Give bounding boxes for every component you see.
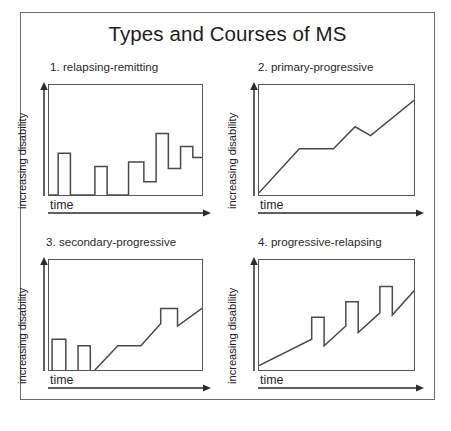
panel-primary-progressive: 2. primary-progressive increasing disabi… xyxy=(238,60,430,220)
panel-3-y-axis: increasing disability xyxy=(28,257,48,371)
panel-1-title: 1. relapsing-remitting xyxy=(50,60,158,73)
y-axis-arrow-icon xyxy=(238,257,258,371)
panel-3-series xyxy=(49,260,202,370)
panel-secondary-progressive: 3. secondary-progressive increasing disa… xyxy=(28,235,218,395)
x-axis-arrow-icon xyxy=(48,375,213,391)
y-axis-arrow-icon xyxy=(28,82,48,196)
panel-2-series xyxy=(259,85,414,195)
panel-1-series xyxy=(49,85,202,195)
panel-3-y-axis-label: increasing disability xyxy=(16,270,29,384)
x-axis-arrow-icon xyxy=(48,200,213,216)
panel-4-title: 4. progressive-relapsing xyxy=(258,235,382,248)
panel-1-plot-area xyxy=(48,84,203,196)
x-axis-arrow-icon xyxy=(258,375,426,391)
x-axis-arrow-icon xyxy=(258,200,426,216)
panel-4-x-axis: time xyxy=(258,375,426,395)
panel-3-title: 3. secondary-progressive xyxy=(46,235,176,248)
page-title: Types and Courses of MS xyxy=(20,22,435,46)
panel-4-plot-area xyxy=(258,259,415,371)
panel-2-y-axis: increasing disability xyxy=(238,82,258,196)
panel-progressive-relapsing: 4. progressive-relapsing increasing disa… xyxy=(238,235,430,395)
panel-2-x-axis: time xyxy=(258,200,426,220)
panel-4-series xyxy=(259,260,414,370)
y-axis-arrow-icon xyxy=(238,82,258,196)
panel-1-x-axis: time xyxy=(48,200,213,220)
panel-2-title: 2. primary-progressive xyxy=(258,60,373,73)
panel-3-plot-area xyxy=(48,259,203,371)
panel-2-plot-area xyxy=(258,84,415,196)
panel-1-y-axis: increasing disability xyxy=(28,82,48,196)
panel-relapsing-remitting: 1. relapsing-remitting increasing disabi… xyxy=(28,60,218,220)
panel-4-y-axis-label: increasing disability xyxy=(226,270,239,384)
panel-2-y-axis-label: increasing disability xyxy=(226,95,239,209)
panel-3-x-axis: time xyxy=(48,375,213,395)
panel-4-y-axis: increasing disability xyxy=(238,257,258,371)
panel-1-y-axis-label: increasing disability xyxy=(16,95,29,209)
ms-types-figure: Types and Courses of MS 1. relapsing-rem… xyxy=(0,0,451,431)
y-axis-arrow-icon xyxy=(28,257,48,371)
